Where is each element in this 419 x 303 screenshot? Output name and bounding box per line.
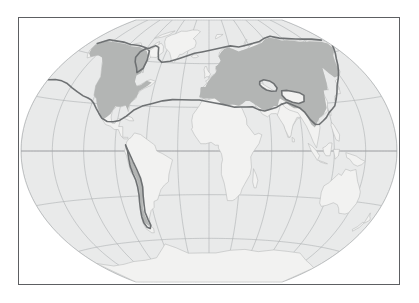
figure-title: World map showing shaded distribution ra… <box>0 0 1 1</box>
map-frame <box>18 17 400 285</box>
world-map-canvas[interactable] <box>19 18 399 284</box>
world-map-figure: World map showing shaded distribution ra… <box>0 0 419 303</box>
landmass-iceland <box>191 55 198 58</box>
